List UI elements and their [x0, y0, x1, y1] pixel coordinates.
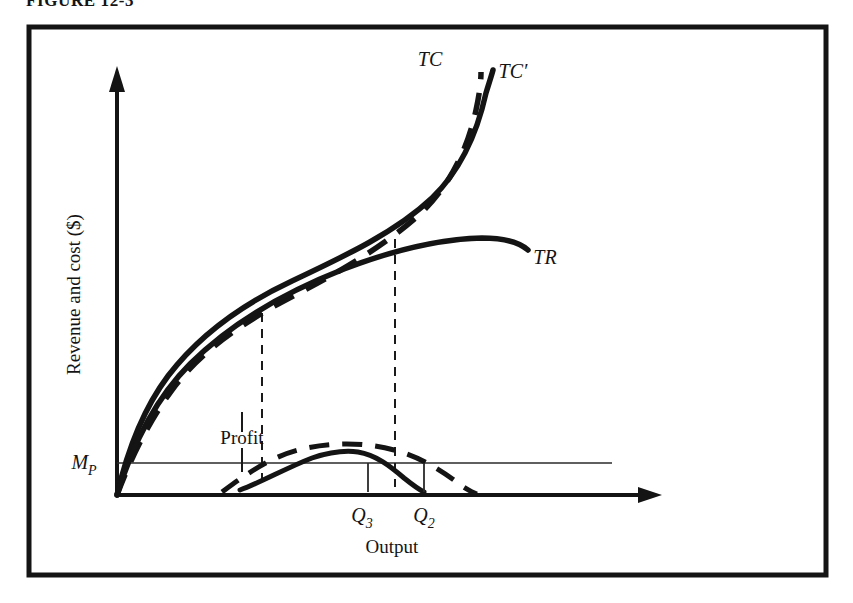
profit-annotation: Profit [220, 427, 264, 448]
figure-container: FIGURE 12-3 Revenue and cost [0, 0, 853, 603]
tc-prime-curve-label: TC′ [499, 60, 528, 82]
mp-axis-label: MP [70, 451, 97, 478]
tr-curve-label: TR [533, 246, 556, 268]
q3-axis-label: Q3 [351, 504, 372, 531]
tc-curve-label: TC [418, 48, 443, 70]
tc-curve [117, 72, 481, 495]
q2-label-sub: 2 [428, 516, 435, 531]
y-axis-arrowhead [109, 66, 125, 92]
mp-label-sub: P [87, 463, 97, 478]
figure-border [29, 27, 826, 575]
tc-prime-curve [117, 70, 493, 495]
q3-label-sub: 3 [365, 516, 373, 531]
q2-label-main: Q [413, 504, 428, 526]
mp-label-main: M [70, 451, 89, 473]
economics-chart: Revenue and cost ($) Output TC TC′ TR Pr… [0, 0, 853, 603]
y-axis-label: Revenue and cost ($) [63, 214, 85, 375]
x-axis-label: Output [366, 536, 420, 557]
q2-axis-label: Q2 [413, 504, 434, 531]
x-axis-arrowhead [638, 487, 662, 503]
q3-label-main: Q [351, 504, 366, 526]
profit-curve-solid [240, 451, 424, 492]
